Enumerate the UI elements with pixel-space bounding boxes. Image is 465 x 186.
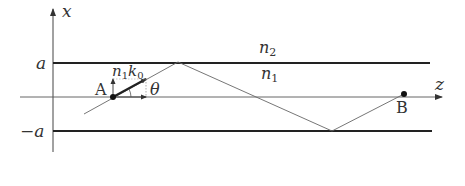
waveguide-diagram: x z a −a n2 n1 n1k0 θ A B bbox=[0, 0, 465, 186]
point-a bbox=[110, 94, 116, 100]
wavevector-arrow bbox=[113, 79, 146, 97]
diagram-canvas: x z a −a n2 n1 n1k0 θ A B bbox=[0, 0, 465, 186]
point-b-label: B bbox=[396, 98, 408, 117]
wv-k-sub: 0 bbox=[137, 70, 143, 81]
x-axis-label: x bbox=[62, 1, 72, 21]
wv-k: k bbox=[128, 62, 137, 80]
core-n: n bbox=[261, 64, 271, 83]
wv-n: n bbox=[112, 62, 122, 80]
angle-label: θ bbox=[150, 80, 160, 99]
cladding-index-label: n2 bbox=[259, 38, 276, 59]
cladding-sub: 2 bbox=[269, 46, 276, 59]
core-sub: 1 bbox=[271, 72, 278, 85]
point-b bbox=[401, 91, 407, 97]
angle-arc bbox=[129, 89, 131, 97]
z-axis-label: z bbox=[434, 74, 445, 94]
cladding-n: n bbox=[259, 38, 269, 57]
lower-boundary-label: −a bbox=[20, 121, 44, 141]
point-a-label: A bbox=[94, 80, 107, 99]
upper-boundary-label: a bbox=[36, 53, 46, 73]
wavevector-label: n1k0 bbox=[112, 62, 144, 81]
core-index-label: n1 bbox=[261, 64, 278, 85]
